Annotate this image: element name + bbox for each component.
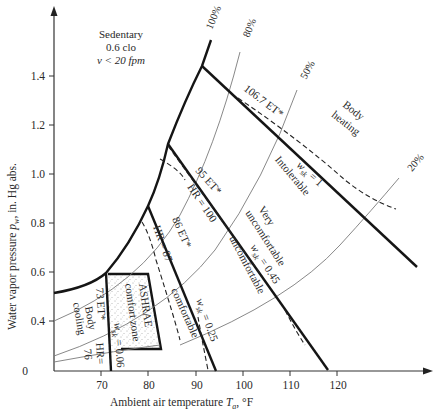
rh-labels: 100% 80% 50% 20%	[204, 4, 426, 174]
x-tick-labels: 70 80 90 100 110 120	[96, 379, 347, 391]
rh-80-label: 80%	[241, 17, 259, 39]
x-tick-label: 80	[143, 379, 155, 391]
y-axis-title: Water vapor pressure pw, in. Hg abs.	[6, 163, 21, 330]
x-tick-label: 120	[329, 379, 347, 391]
sedentary-label: Sedentary	[99, 28, 143, 40]
y-tick-label: 0.6	[31, 266, 46, 278]
x-axis-title: Ambient air temperature Ta, °F	[110, 396, 253, 411]
y-tick-label: 1.2	[31, 119, 46, 131]
y-tick-labels: 1.4 1.2 1.0 0.8 0.6 0.4 0	[22, 70, 45, 377]
x-ticks	[101, 371, 337, 376]
x-tick-label: 110	[283, 379, 300, 391]
y-tick-label: 1.4	[31, 70, 46, 82]
rh-50-label: 50%	[298, 59, 317, 81]
rh-100-label: 100%	[204, 4, 223, 31]
clo-label: 0.6 clo	[106, 41, 136, 53]
y-tick-label: 0.4	[31, 315, 46, 327]
hr-87-label: HR = 87	[151, 224, 175, 264]
x-tick-label: 90	[191, 379, 203, 391]
y-tick-label: 0	[22, 365, 28, 377]
rh-20-label: 20%	[405, 151, 426, 173]
hr-76-label-a: HR=	[94, 342, 107, 364]
saturation-curve-100	[54, 40, 211, 293]
y-tick-label: 0.8	[31, 217, 46, 229]
y-ticks	[49, 76, 54, 321]
x-tick-label: 70	[96, 379, 108, 391]
x-axis-arrow-icon	[423, 368, 433, 375]
conditions-label: Sedentary 0.6 clo v < 20 fpm	[97, 28, 145, 66]
wsk-1-dashed	[238, 98, 396, 209]
hr-76-label-b: 76	[82, 348, 95, 360]
et-86-label: 86 ET*	[170, 215, 194, 250]
y-tick-label: 1.0	[31, 168, 46, 180]
comfort-chart: 1.4 1.2 1.0 0.8 0.6 0.4 0 70 80 90 100 1…	[0, 0, 437, 412]
et-106-label: 106.7 ET*	[242, 82, 286, 120]
x-tick-label: 100	[235, 379, 253, 391]
velocity-label: v < 20 fpm	[97, 54, 145, 66]
y-axis-arrow-icon	[51, 6, 58, 16]
